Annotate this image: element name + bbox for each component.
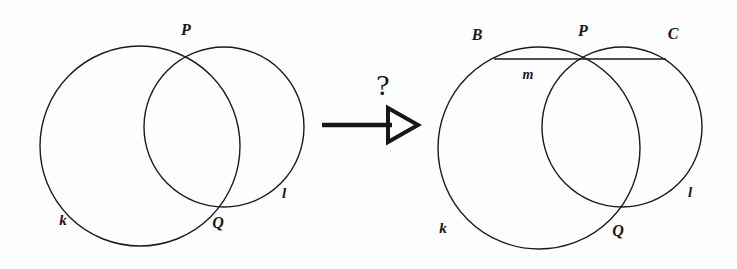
label-line-m-after: m: [523, 68, 534, 82]
question-mark-symbol: ?: [376, 70, 389, 100]
panel-after: [438, 47, 702, 249]
figure-canvas: [0, 0, 737, 269]
label-point-q-before: Q: [212, 215, 224, 231]
circle-l-before: [144, 47, 304, 207]
circle-l-after: [542, 47, 702, 207]
label-point-b-after: B: [472, 27, 483, 43]
implication-arrow: [322, 108, 418, 142]
label-point-q-after: Q: [612, 223, 624, 239]
label-circle-l-before: l: [282, 186, 286, 201]
circle-k-before: [40, 46, 240, 246]
circle-k-after: [438, 47, 640, 249]
label-circle-k-after: k: [439, 221, 447, 236]
label-point-c-after: C: [668, 26, 679, 42]
label-circle-k-before: k: [59, 213, 67, 228]
geometry-figure: P Q k l ? B P C m k Q l: [0, 0, 737, 269]
label-point-p-after: P: [578, 23, 588, 39]
arrow-head: [388, 108, 418, 142]
label-point-p-before: P: [181, 22, 191, 38]
label-circle-l-after: l: [688, 185, 692, 200]
panel-before: [40, 46, 304, 246]
